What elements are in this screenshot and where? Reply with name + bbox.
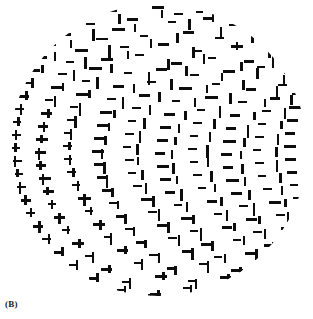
texture-element-vertical — [213, 119, 216, 129]
texture-element-vertical — [170, 79, 173, 90]
texture-element-horizontal — [198, 187, 206, 189]
texture-element-horizontal — [222, 226, 232, 229]
texture-element-vertical — [134, 24, 136, 32]
texture-element-vertical — [17, 117, 20, 126]
texture-element-vertical — [195, 279, 197, 289]
texture-element-vertical — [186, 202, 188, 212]
texture-element-vertical — [118, 14, 121, 24]
texture-element-vertical — [76, 260, 78, 270]
texture-element-vertical — [54, 96, 56, 107]
texture-element-vertical — [258, 216, 261, 224]
texture-element-horizontal — [258, 123, 266, 125]
texture-element-vertical — [174, 137, 177, 145]
texture-element-vertical — [99, 220, 102, 230]
texture-element-horizontal — [223, 70, 235, 73]
texture-element-horizontal — [94, 137, 104, 140]
texture-element-vertical — [207, 261, 209, 273]
texture-element-vertical — [148, 72, 150, 85]
texture-element-vertical — [38, 221, 41, 233]
texture-element-horizontal — [125, 228, 134, 230]
texture-element-vertical — [283, 75, 285, 84]
texture-element-horizontal — [223, 140, 236, 143]
texture-element-horizontal — [226, 127, 236, 130]
texture-element-vertical — [25, 91, 28, 100]
texture-element-horizontal — [181, 217, 193, 220]
texture-element-horizontal — [287, 119, 298, 122]
texture-element-vertical — [68, 142, 71, 150]
texture-element-vertical — [167, 59, 170, 70]
texture-element-vertical — [158, 253, 160, 263]
texture-element-vertical — [211, 241, 214, 251]
texture-element-horizontal — [284, 145, 296, 148]
texture-element-vertical — [276, 160, 278, 172]
texture-element-vertical — [149, 105, 151, 115]
texture-element-vertical — [133, 84, 135, 93]
texture-element-vertical — [178, 235, 180, 246]
texture-element-vertical — [70, 40, 72, 48]
texture-element-vertical — [256, 68, 259, 79]
texture-element-horizontal — [196, 11, 203, 13]
texture-element-horizontal — [201, 243, 212, 246]
texture-element-vertical — [14, 156, 16, 167]
texture-element-horizontal — [70, 106, 78, 108]
texture-element-vertical — [110, 233, 112, 245]
texture-element-vertical — [104, 136, 107, 145]
texture-element-vertical — [111, 188, 114, 197]
texture-element-horizontal — [66, 61, 74, 63]
texture-element-vertical — [233, 223, 236, 231]
texture-element-horizontal — [245, 252, 255, 255]
texture-element-horizontal — [109, 202, 118, 204]
texture-element-vertical — [15, 130, 17, 140]
texture-element-horizontal — [139, 94, 150, 97]
texture-element-horizontal — [230, 114, 240, 117]
texture-element-vertical — [139, 131, 141, 143]
texture-element-horizontal — [122, 281, 130, 283]
texture-element-horizontal — [97, 176, 107, 179]
texture-element-vertical — [178, 124, 180, 133]
texture-element-vertical — [191, 248, 194, 260]
texture-element-horizontal — [86, 23, 95, 25]
texture-element-vertical — [206, 85, 208, 93]
texture-element-vertical — [243, 236, 245, 245]
texture-element-horizontal — [17, 186, 26, 188]
texture-element-vertical — [221, 73, 223, 81]
texture-element-vertical — [248, 190, 251, 200]
texture-element-vertical — [39, 161, 42, 170]
texture-element-vertical — [48, 234, 50, 244]
texture-element-horizontal — [125, 159, 134, 161]
texture-element-horizontal — [82, 80, 90, 82]
texture-element-horizontal — [253, 149, 261, 151]
texture-element-horizontal — [190, 135, 198, 137]
texture-element-vertical — [108, 123, 110, 131]
texture-element-horizontal — [157, 139, 168, 142]
texture-element-horizontal — [193, 122, 202, 124]
texture-element-vertical — [137, 157, 139, 165]
texture-element-vertical — [141, 170, 144, 180]
texture-element-horizontal — [123, 146, 131, 148]
texture-element-vertical — [284, 199, 287, 207]
texture-element-horizontal — [113, 85, 124, 88]
texture-element-horizontal — [255, 162, 264, 164]
texture-element-horizontal — [221, 153, 232, 156]
texture-element-horizontal — [85, 255, 93, 257]
texture-element-horizontal — [262, 110, 271, 112]
texture-element-horizontal — [135, 54, 144, 56]
texture-element-vertical — [96, 77, 99, 89]
texture-element-vertical — [158, 92, 161, 102]
texture-element-vertical — [229, 93, 232, 104]
texture-element-vertical — [129, 278, 131, 289]
texture-element-horizontal — [58, 73, 67, 75]
texture-element-vertical — [162, 272, 165, 280]
texture-element-vertical — [152, 196, 155, 207]
texture-element-horizontal — [270, 97, 280, 100]
texture-element-horizontal — [156, 68, 167, 71]
texture-element-vertical — [136, 144, 139, 155]
texture-element-vertical — [143, 118, 146, 129]
texture-element-vertical — [83, 194, 86, 206]
texture-element-horizontal — [190, 74, 199, 76]
texture-element-horizontal — [155, 152, 165, 155]
texture-element-horizontal — [183, 287, 191, 289]
texture-element-horizontal — [269, 201, 281, 204]
texture-element-vertical — [54, 52, 56, 61]
texture-element-horizontal — [214, 256, 222, 258]
